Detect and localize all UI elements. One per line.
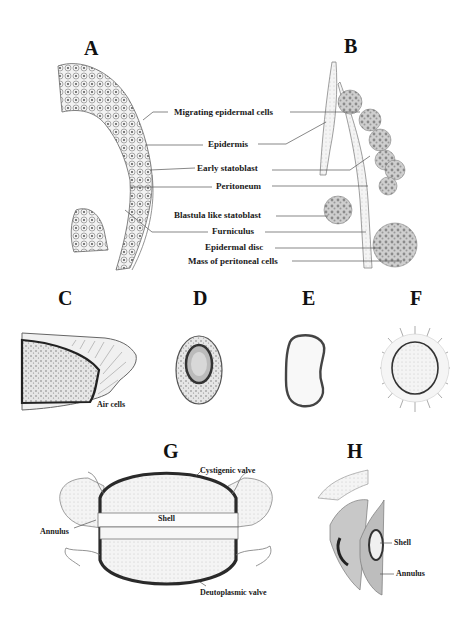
label-furniculus: Furniculus xyxy=(212,227,254,236)
figure-b-drawing xyxy=(320,62,417,268)
label-annulus-g: Annulus xyxy=(40,528,69,536)
figure-c-drawing xyxy=(22,333,136,410)
figure-g-drawing xyxy=(60,472,273,584)
label-peritoneum: Peritoneum xyxy=(216,182,261,191)
drawings-layer xyxy=(0,0,474,622)
label-mass-of-peritoneal-cells: Mass of peritoneal cells xyxy=(188,257,278,266)
figure-d-drawing xyxy=(176,336,222,404)
label-migrating-epidermal-cells: Migrating epidermal cells xyxy=(174,108,273,117)
label-annulus-h: Annulus xyxy=(396,570,425,578)
label-early-statoblast: Early statoblast xyxy=(197,164,258,173)
label-cystigenic-valve: Cystigenic valve xyxy=(200,467,255,475)
label-shell-g: Shell xyxy=(158,515,175,523)
figure-a-drawing xyxy=(58,64,153,270)
label-blastula-like-statoblast: Blastula like statoblast xyxy=(174,211,261,220)
figure-f-drawing xyxy=(380,326,450,412)
label-deutoplasmic-valve: Deutoplasmic valve xyxy=(200,589,266,597)
figure-h-drawing xyxy=(318,470,384,595)
label-epidermal-disc: Epidermal disc xyxy=(205,243,263,252)
label-shell-h: Shell xyxy=(394,539,411,547)
figure-e-drawing xyxy=(286,335,324,406)
label-air-cells: Air cells xyxy=(97,401,125,409)
label-epidermis: Epidermis xyxy=(208,140,248,149)
